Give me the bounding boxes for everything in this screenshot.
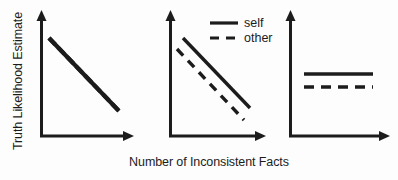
x-axis-label: Number of Inconsistent Facts xyxy=(99,155,319,169)
y-axis-label: Truth Likelihood Estimate xyxy=(11,6,25,156)
panel-3-x-axis-arrowhead xyxy=(379,131,390,141)
panel-2-y-axis-arrowhead xyxy=(166,10,176,21)
panel-2-series-self-line xyxy=(183,38,250,108)
panel-1-x-axis-arrowhead xyxy=(123,131,134,141)
panel-1 xyxy=(37,10,135,141)
chart-canvas xyxy=(0,0,398,180)
legend-label-other: other xyxy=(244,31,273,45)
figure-container: self other Truth Likelihood Estimate Num… xyxy=(0,0,398,180)
panel-2-x-axis-arrowhead xyxy=(255,131,266,141)
panel-3-y-axis-arrowhead xyxy=(286,10,296,21)
legend-label-self: self xyxy=(244,16,263,30)
legend xyxy=(210,23,238,38)
panel-1-y-axis-arrowhead xyxy=(37,10,47,21)
panel-2-series-other-line xyxy=(177,49,244,120)
panel-3 xyxy=(286,10,391,141)
